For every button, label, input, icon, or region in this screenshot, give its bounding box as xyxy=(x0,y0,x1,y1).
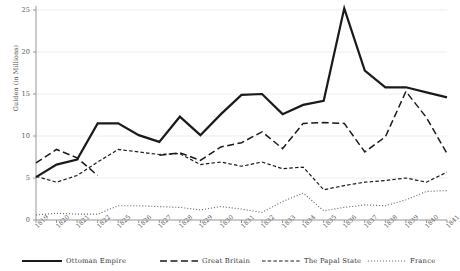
legend-swatch-shortdash xyxy=(262,257,300,265)
series-line-france xyxy=(36,191,447,215)
series-line-the-papal-state xyxy=(36,149,447,189)
series-line-ottoman-empire xyxy=(36,8,447,177)
legend-item-ottoman-empire[interactable]: Ottoman Empire xyxy=(22,250,126,271)
legend-swatch-longdash xyxy=(160,257,198,265)
legend-item-great-britain[interactable]: Great Britain xyxy=(160,250,250,271)
legend-label: The Papal State xyxy=(304,257,361,265)
chart-legend: Ottoman EmpireGreat BritainThe Papal Sta… xyxy=(0,250,455,271)
series-line-great-britain xyxy=(36,91,447,175)
legend-swatch-dotted xyxy=(368,257,406,265)
legend-swatch-solid xyxy=(22,257,62,265)
legend-item-the-papal-state[interactable]: The Papal State xyxy=(262,250,361,271)
legend-label: Great Britain xyxy=(202,257,250,265)
legend-label: France xyxy=(410,257,435,265)
legend-item-france[interactable]: France xyxy=(368,250,435,271)
legend-label: Ottoman Empire xyxy=(66,257,126,265)
